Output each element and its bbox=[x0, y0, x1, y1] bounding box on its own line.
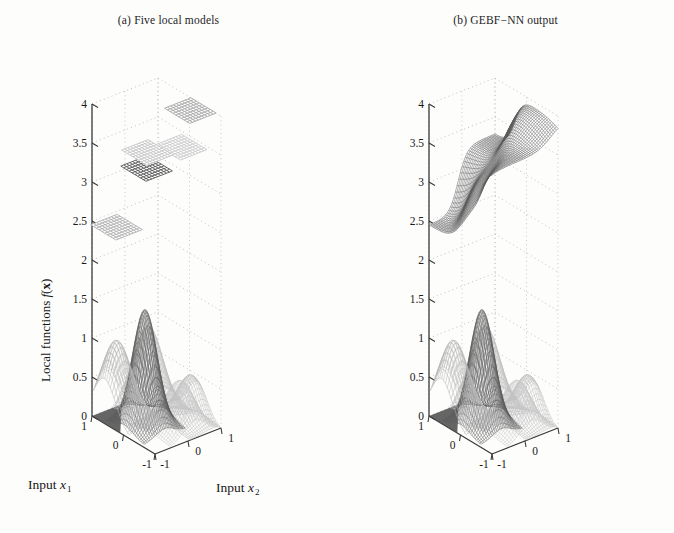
grid-line bbox=[158, 156, 221, 194]
z-tick bbox=[429, 260, 435, 264]
z-tick-label: 4 bbox=[81, 98, 87, 110]
x1-tick bbox=[428, 416, 429, 422]
z-tick-label: 3.5 bbox=[73, 137, 88, 149]
x1-tick bbox=[91, 416, 92, 422]
x2-tick-label: 0 bbox=[532, 445, 538, 457]
zaxis-label-f: f bbox=[38, 294, 53, 298]
z-tick-label: 3 bbox=[418, 176, 424, 188]
z-tick-label: 0.5 bbox=[73, 371, 88, 383]
z-tick-label: 1.5 bbox=[73, 293, 88, 305]
z-tick bbox=[92, 299, 98, 303]
basis-functions-layer bbox=[429, 310, 557, 447]
zaxis-label-paren-close: ) bbox=[38, 279, 53, 283]
grid-line bbox=[92, 195, 158, 221]
x2-tick-label: -1 bbox=[497, 458, 507, 470]
basis-peak-4 bbox=[131, 380, 220, 446]
z-tick-label: 3.5 bbox=[410, 137, 425, 149]
z-tick-label: 1.5 bbox=[410, 293, 425, 305]
xaxis2-var: x bbox=[248, 480, 254, 495]
x2-tick-label: 1 bbox=[228, 432, 234, 444]
z-tick bbox=[92, 104, 98, 108]
x2-tick bbox=[492, 454, 493, 460]
z-tick-label: 2.5 bbox=[410, 215, 425, 227]
panel-b-gebf-nn-output: (b) GEBF−NN output 00.511.522.533.5410-1… bbox=[337, 0, 674, 533]
z-tick-label: 2 bbox=[418, 254, 424, 266]
grid-line bbox=[158, 312, 221, 350]
panel-a-five-local-models: (a) Five local models 00.511.522.533.541… bbox=[0, 0, 337, 533]
z-tick bbox=[92, 260, 98, 264]
z-tick-label: 1 bbox=[418, 332, 424, 344]
panel-b-title: (b) GEBF−NN output bbox=[337, 14, 674, 26]
z-tick bbox=[92, 338, 98, 342]
z-tick bbox=[429, 104, 435, 108]
x1-tick-label: 0 bbox=[113, 439, 119, 451]
panel-a-plot: 00.511.522.533.5410-1-101 bbox=[0, 0, 337, 533]
grid-line bbox=[495, 195, 558, 233]
x1-tick-label: 1 bbox=[81, 420, 87, 432]
xaxis1-subscript: 1 bbox=[66, 484, 72, 494]
z-tick bbox=[92, 143, 98, 147]
xaxis2-label-text: Input bbox=[216, 480, 248, 495]
z-tick-label: 0.5 bbox=[410, 371, 425, 383]
x2-tick bbox=[558, 428, 559, 434]
local-plane-1 bbox=[91, 214, 143, 240]
gebf-nn-output-surface bbox=[429, 105, 558, 233]
z-tick-label: 3 bbox=[81, 176, 87, 188]
z-tick-label: 4 bbox=[418, 98, 424, 110]
x1-tick bbox=[123, 435, 124, 441]
zaxis-label-paren-open: ( bbox=[38, 290, 53, 294]
grid-line bbox=[158, 195, 221, 233]
panel-b-plot: 00.511.522.533.5410-1-101 bbox=[337, 0, 674, 533]
x2-tick bbox=[155, 454, 156, 460]
x2-tick bbox=[525, 441, 526, 447]
z-tick bbox=[429, 299, 435, 303]
x2-tick bbox=[221, 428, 222, 434]
basis-peak-4 bbox=[468, 380, 557, 446]
panel-a-xaxis2-label: Input x2 bbox=[216, 480, 259, 497]
x2-tick bbox=[188, 441, 189, 447]
xaxis2-subscript: 2 bbox=[254, 487, 260, 497]
panel-a-xaxis1-label: Input x1 bbox=[28, 477, 71, 494]
x1-tick-label: 1 bbox=[418, 420, 424, 432]
z-tick-label: 1 bbox=[81, 332, 87, 344]
basis-functions-layer bbox=[92, 310, 220, 447]
z-tick-label: 2 bbox=[81, 254, 87, 266]
x1-tick bbox=[460, 435, 461, 441]
x2-tick-label: 1 bbox=[565, 432, 571, 444]
x1-tick-label: -1 bbox=[142, 458, 152, 470]
grid-line bbox=[495, 312, 558, 350]
xaxis1-var: x bbox=[60, 477, 66, 492]
local-plane-5 bbox=[165, 98, 217, 124]
z-tick-label: 2.5 bbox=[73, 215, 88, 227]
x2-tick-label: 0 bbox=[195, 445, 201, 457]
z-tick bbox=[92, 182, 98, 186]
z-tick bbox=[429, 338, 435, 342]
zaxis-label-x: x bbox=[38, 283, 53, 290]
x2-tick-label: -1 bbox=[160, 458, 170, 470]
figure-canvas: (a) Five local models 00.511.522.533.541… bbox=[0, 0, 674, 533]
panel-a-title: (a) Five local models bbox=[0, 14, 337, 26]
zaxis-label-text: Local functions bbox=[38, 298, 53, 382]
panel-a-zaxis-label: Local functions f(x) bbox=[38, 279, 54, 382]
x1-tick-label: 0 bbox=[450, 439, 456, 451]
z-tick bbox=[429, 143, 435, 147]
z-tick bbox=[429, 182, 435, 186]
xaxis1-label-text: Input bbox=[28, 477, 60, 492]
x1-tick-label: -1 bbox=[479, 458, 489, 470]
